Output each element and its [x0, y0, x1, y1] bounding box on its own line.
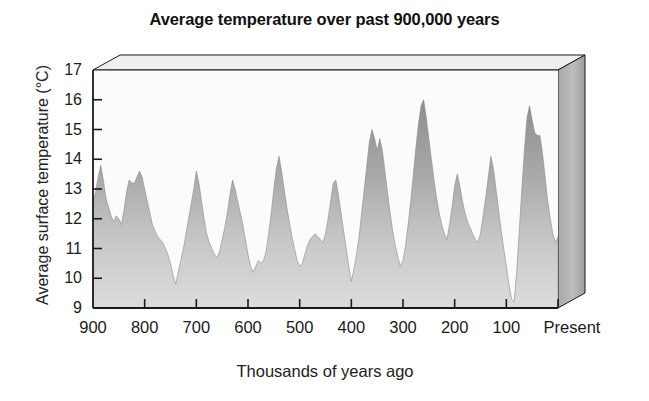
y-axis-tick-label: 14: [50, 151, 82, 167]
y-axis-tick-label: 9: [50, 300, 82, 316]
x-axis-tick-label: 800: [123, 319, 167, 336]
x-axis-tick-label: 600: [226, 319, 270, 336]
x-axis-tick-label: 300: [381, 319, 425, 336]
x-axis-tick-label: 100: [484, 319, 528, 336]
chart-figure: Average temperature over past 900,000 ye…: [0, 0, 649, 401]
x-axis-tick-label: 400: [329, 319, 373, 336]
y-axis-tick-label: 17: [50, 62, 82, 78]
x-axis-tick-label: 900: [71, 319, 115, 336]
y-axis-tick-label: 13: [50, 181, 82, 197]
y-axis-tick-label: 10: [50, 270, 82, 286]
plot-canvas: [0, 0, 649, 401]
y-axis-tick-label: 15: [50, 122, 82, 138]
x-axis-tick-label: 200: [433, 319, 477, 336]
x-axis-tick-label: 500: [278, 319, 322, 336]
y-axis-tick-label: 11: [50, 241, 82, 257]
x-axis-title: Thousands of years ago: [90, 362, 560, 381]
y-axis-tick-label: 16: [50, 92, 82, 108]
y-axis-tick-label: 12: [50, 211, 82, 227]
chart-title: Average temperature over past 900,000 ye…: [0, 10, 649, 29]
box-side-panel: [558, 55, 585, 308]
x-axis-tick-label: 700: [174, 319, 218, 336]
box-top-panel: [93, 55, 585, 70]
x-axis-tick-label: Present: [533, 319, 611, 336]
